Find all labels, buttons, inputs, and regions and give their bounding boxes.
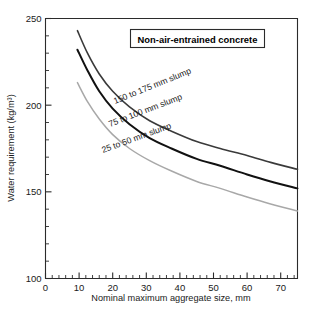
x-tick-label: 0 (43, 282, 48, 293)
x-tick-label: 50 (208, 282, 219, 293)
y-axis-title: Water requirement (kg/m³) (6, 94, 16, 201)
y-tick-label: 250 (26, 13, 42, 24)
x-axis-ticks (46, 273, 295, 279)
annotation-box: Non-air-entrained concrete (131, 30, 265, 48)
y-tick-label: 150 (26, 186, 42, 197)
y-axis-ticks (46, 19, 52, 279)
chart-plot-area: 100150200250 010203040506070 150 to 175 … (0, 0, 310, 310)
x-tick-label: 70 (275, 282, 286, 293)
y-axis-tick-labels: 100150200250 (26, 13, 42, 284)
x-tick-label: 60 (242, 282, 253, 293)
x-tick-label: 10 (74, 282, 85, 293)
x-axis-title: Nominal maximum aggregate size, mm (91, 293, 251, 303)
x-tick-label: 30 (141, 282, 152, 293)
chart-figure: 100150200250 010203040506070 150 to 175 … (0, 0, 310, 310)
y-tick-label: 200 (26, 100, 42, 111)
y-tick-label: 100 (26, 273, 42, 284)
x-tick-label: 20 (107, 282, 118, 293)
annotation-box-label: Non-air-entrained concrete (138, 34, 258, 45)
x-axis-tick-labels: 010203040506070 (43, 282, 286, 293)
x-tick-label: 40 (175, 282, 186, 293)
